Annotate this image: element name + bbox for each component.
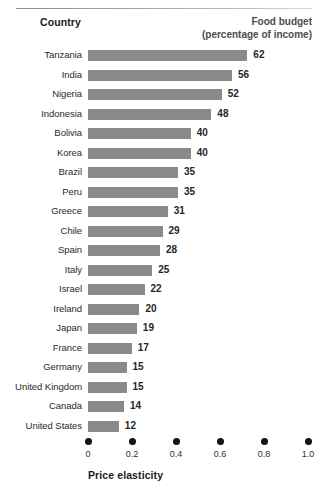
bar-row-country-label: Brazil — [0, 166, 82, 178]
x-axis-tick: 0 — [73, 438, 103, 460]
bar-row-bar — [88, 245, 160, 256]
x-axis-tick-dot-icon — [305, 438, 312, 445]
x-axis-tick: 0.6 — [205, 438, 235, 460]
column-header-country: Country — [40, 16, 81, 28]
bar-row: Japan19 — [0, 321, 320, 341]
bar-row: Tanzania62 — [0, 48, 320, 68]
bar-row-country-label: Ireland — [0, 303, 82, 315]
bar-row-bar — [88, 401, 124, 412]
bar-row-value-label: 40 — [197, 147, 208, 159]
bar-row: Germany15 — [0, 360, 320, 380]
bar-row: Indonesia48 — [0, 107, 320, 127]
bar-row-value-label: 20 — [145, 303, 156, 315]
bar-row-country-label: Bolivia — [0, 127, 82, 139]
bar-row-bar — [88, 382, 127, 393]
column-header-food-budget-line2: (percentage of income) — [132, 29, 312, 42]
bar-row-value-label: 12 — [125, 420, 136, 432]
bar-row: Peru35 — [0, 185, 320, 205]
bar-row-country-label: Germany — [0, 361, 82, 373]
bar-row-bar — [88, 421, 119, 432]
x-axis-tick-dot-icon — [85, 438, 92, 445]
bar-row-bar — [88, 148, 191, 159]
x-axis-tick-label: 1.0 — [293, 449, 320, 460]
bar-row-value-label: 31 — [174, 205, 185, 217]
x-axis-tick-label: 0.8 — [249, 449, 279, 460]
x-axis-title: Price elasticity — [88, 469, 163, 481]
bar-row-country-label: Spain — [0, 244, 82, 256]
bar-row: Nigeria52 — [0, 87, 320, 107]
bar-row-bar — [88, 128, 191, 139]
bar-row-bar — [88, 284, 145, 295]
bar-row: United States12 — [0, 419, 320, 439]
bar-row-value-label: 28 — [166, 244, 177, 256]
bar-row-bar — [88, 304, 139, 315]
bar-row-bar — [88, 50, 247, 61]
bar-row-bar — [88, 265, 152, 276]
bar-row: France17 — [0, 341, 320, 361]
bar-row-country-label: Israel — [0, 283, 82, 295]
bar-row-bar — [88, 187, 178, 198]
bar-row-country-label: Nigeria — [0, 88, 82, 100]
bar-row-bar — [88, 109, 211, 120]
bar-row-country-label: Italy — [0, 264, 82, 276]
bar-row-value-label: 62 — [253, 49, 264, 61]
bar-row-country-label: Indonesia — [0, 108, 82, 120]
bar-row-country-label: Greece — [0, 205, 82, 217]
column-header-food-budget: Food budget (percentage of income) — [132, 16, 312, 41]
bar-row-country-label: United States — [0, 420, 82, 432]
bar-row: Brazil35 — [0, 165, 320, 185]
x-axis-tick: 1.0 — [293, 438, 320, 460]
bar-row-value-label: 14 — [130, 400, 141, 412]
x-axis-tick: 0.2 — [117, 438, 147, 460]
bar-row: Italy25 — [0, 263, 320, 283]
x-axis-tick: 0.4 — [161, 438, 191, 460]
bar-row: Canada14 — [0, 399, 320, 419]
food-budget-price-elasticity-chart: Country Food budget (percentage of incom… — [0, 0, 320, 494]
bar-row-value-label: 29 — [169, 225, 180, 237]
x-axis-tick-dot-icon — [129, 438, 136, 445]
bar-row-value-label: 15 — [133, 361, 144, 373]
bar-row-value-label: 35 — [184, 166, 195, 178]
x-axis-tick-label: 0.6 — [205, 449, 235, 460]
bar-row-value-label: 40 — [197, 127, 208, 139]
bar-row-value-label: 15 — [133, 381, 144, 393]
bar-row-bar — [88, 206, 168, 217]
bar-row-value-label: 22 — [151, 283, 162, 295]
x-axis-tick-dot-icon — [217, 438, 224, 445]
bar-row-bar — [88, 167, 178, 178]
chart-header: Country Food budget (percentage of incom… — [0, 16, 320, 46]
bar-row-value-label: 48 — [217, 108, 228, 120]
bar-row-bar — [88, 343, 132, 354]
bar-row-value-label: 25 — [158, 264, 169, 276]
bar-row-country-label: Canada — [0, 400, 82, 412]
bar-row-country-label: France — [0, 342, 82, 354]
x-axis-tick: 0.8 — [249, 438, 279, 460]
x-axis-tick-dot-icon — [261, 438, 268, 445]
bar-row-bar — [88, 323, 137, 334]
bar-row: Ireland20 — [0, 302, 320, 322]
x-axis-tick-label: 0.4 — [161, 449, 191, 460]
x-axis-tick-label: 0.2 — [117, 449, 147, 460]
bar-row: United Kingdom15 — [0, 380, 320, 400]
bar-row-country-label: United Kingdom — [0, 381, 82, 393]
bar-row-country-label: Peru — [0, 186, 82, 198]
x-axis-tick-dot-icon — [173, 438, 180, 445]
bar-row-bar — [88, 70, 232, 81]
bar-row-value-label: 35 — [184, 186, 195, 198]
bar-row: Spain28 — [0, 243, 320, 263]
top-divider-rule — [16, 8, 312, 9]
bar-row-country-label: India — [0, 69, 82, 81]
bar-row: Bolivia40 — [0, 126, 320, 146]
bar-row-bar — [88, 89, 222, 100]
bar-row-value-label: 56 — [238, 69, 249, 81]
x-axis-tick-label: 0 — [73, 449, 103, 460]
bar-row-value-label: 19 — [143, 322, 154, 334]
bar-row: Israel22 — [0, 282, 320, 302]
column-header-food-budget-line1: Food budget — [132, 16, 312, 29]
bar-row-country-label: Chile — [0, 225, 82, 237]
bar-row-value-label: 17 — [138, 342, 149, 354]
bar-row-country-label: Japan — [0, 322, 82, 334]
x-axis: 00.20.40.60.81.0 Price elasticity — [0, 438, 320, 494]
bar-row-bar — [88, 226, 163, 237]
bar-row: Chile29 — [0, 224, 320, 244]
